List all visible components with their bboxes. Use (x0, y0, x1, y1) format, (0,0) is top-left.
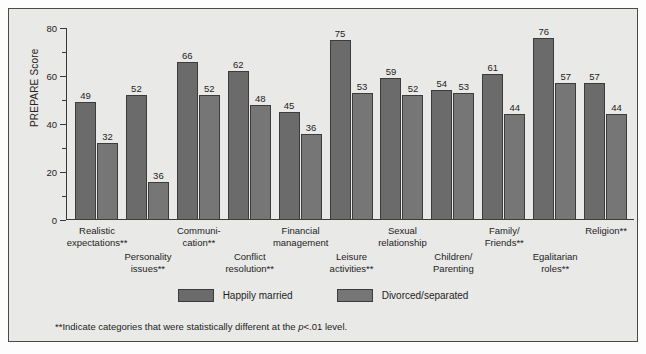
bar: 32 (97, 143, 118, 220)
bar: 49 (75, 102, 96, 220)
bar-group: 6248 (228, 28, 272, 220)
y-tick-major (60, 172, 66, 173)
category-label: Conflictresolution** (195, 251, 305, 274)
bar-value-label: 44 (611, 102, 622, 113)
footnote-suffix: <.01 level. (304, 321, 348, 332)
bar: 59 (380, 78, 401, 220)
bar-value-label: 49 (80, 90, 91, 101)
bar: 53 (352, 93, 373, 220)
bar-value-label: 62 (233, 59, 244, 70)
bar: 36 (148, 182, 169, 220)
bar: 66 (177, 62, 198, 220)
bar-value-label: 53 (357, 81, 368, 92)
legend-label: Happily married (223, 290, 293, 301)
bar-group: 6144 (482, 28, 526, 220)
y-axis-title: PREPARE Score (29, 48, 40, 127)
category-label-line: management (246, 237, 356, 249)
footnote-prefix: **Indicate categories that were statisti… (55, 321, 298, 332)
category-label: Leisureactivities** (297, 251, 407, 274)
bar: 36 (301, 134, 322, 220)
bar: 62 (228, 71, 249, 220)
bar: 45 (279, 112, 300, 220)
bar: 52 (402, 95, 423, 220)
category-label-line: expectations** (42, 237, 152, 249)
bar-group: 7657 (533, 28, 577, 220)
bar: 48 (250, 105, 271, 220)
category-label-line: Financial (246, 225, 356, 237)
bar: 52 (199, 95, 220, 220)
bar-value-label: 45 (284, 100, 295, 111)
y-tick-label: 20 (46, 167, 57, 178)
category-label-line: Parenting (398, 263, 508, 275)
category-label-line: Egalitarian (500, 251, 610, 263)
bar-value-label: 53 (459, 81, 470, 92)
bar-value-label: 48 (255, 93, 266, 104)
category-label-line: Realistic (42, 225, 152, 237)
bar-value-label: 54 (437, 78, 448, 89)
category-labels: Realisticexpectations**Personalityissues… (66, 225, 634, 277)
category-label-line: Leisure (297, 251, 407, 263)
category-label-line: resolution** (195, 263, 305, 275)
bar-group: 7553 (330, 28, 374, 220)
category-label: Communi-cation** (144, 225, 254, 248)
chart-legend: Happily marriedDivorced/separated (9, 289, 637, 302)
bar-group: 5744 (584, 28, 628, 220)
y-tick-major (60, 220, 66, 221)
bar-value-label: 61 (487, 62, 498, 73)
y-tick-minor (62, 100, 66, 101)
category-label: Religion** (551, 225, 646, 237)
bar-value-label: 52 (408, 83, 419, 94)
y-tick-label: 80 (46, 23, 57, 34)
bar: 44 (606, 114, 627, 220)
bar: 76 (533, 38, 554, 220)
legend-item: Happily married (178, 289, 293, 302)
bar-value-label: 75 (335, 28, 346, 39)
category-label-line: Personality (93, 251, 203, 263)
y-tick-major (60, 76, 66, 77)
bar: 54 (431, 90, 452, 220)
category-label: Personalityissues** (93, 251, 203, 274)
category-label-line: Family/ (449, 225, 559, 237)
bar-value-label: 52 (204, 83, 215, 94)
bar-value-label: 59 (386, 66, 397, 77)
category-label-line: cation** (144, 237, 254, 249)
category-label-line: relationship (347, 237, 457, 249)
category-label: Realisticexpectations** (42, 225, 152, 248)
category-label: Financialmanagement (246, 225, 356, 248)
bar-group: 5453 (431, 28, 475, 220)
category-label-line: Religion** (551, 225, 646, 237)
category-label-line: issues** (93, 263, 203, 275)
bar-group: 5236 (126, 28, 170, 220)
legend-swatch (337, 289, 373, 302)
legend-item: Divorced/separated (337, 289, 469, 302)
category-label: Sexualrelationship (347, 225, 457, 248)
y-tick-major (60, 28, 66, 29)
bar: 61 (482, 74, 503, 220)
bar-value-label: 66 (182, 50, 193, 61)
category-label-line: Sexual (347, 225, 457, 237)
legend-swatch (178, 289, 214, 302)
category-label-line: activities** (297, 263, 407, 275)
bar-group: 4536 (279, 28, 323, 220)
y-tick-minor (62, 148, 66, 149)
category-label-line: Conflict (195, 251, 305, 263)
y-axis-line (66, 28, 67, 220)
bar: 75 (330, 40, 351, 220)
bar-value-label: 76 (538, 26, 549, 37)
bar-value-label: 57 (589, 71, 600, 82)
bar-value-label: 36 (153, 170, 164, 181)
category-label-line: Friends** (449, 237, 559, 249)
y-tick-label: 60 (46, 71, 57, 82)
category-label-line: roles** (500, 263, 610, 275)
bar-group: 4932 (75, 28, 119, 220)
bar-group: 5952 (380, 28, 424, 220)
bar-value-label: 32 (102, 131, 113, 142)
legend-label: Divorced/separated (382, 290, 469, 301)
bar: 52 (126, 95, 147, 220)
footnote: **Indicate categories that were statisti… (55, 321, 347, 332)
bar: 57 (584, 83, 605, 220)
y-tick-major (60, 124, 66, 125)
category-label: Family/Friends** (449, 225, 559, 248)
bar-value-label: 52 (131, 83, 142, 94)
bar-group: 6652 (177, 28, 221, 220)
